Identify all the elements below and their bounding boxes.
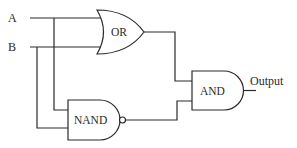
input-label-a: A — [8, 11, 17, 25]
nand-inversion-bubble — [120, 117, 126, 123]
and-gate: AND — [192, 71, 243, 110]
input-label-b: B — [8, 40, 16, 54]
output-label: Output — [250, 74, 284, 88]
or-gate-label: OR — [111, 26, 127, 38]
wire-nand-to-and — [126, 101, 193, 120]
logic-circuit-diagram: A B OR NAND AND Output — [0, 0, 297, 148]
wire-a — [30, 18, 103, 110]
wire-or-to-and — [144, 32, 192, 81]
nand-gate: NAND — [68, 100, 126, 140]
and-gate-label: AND — [200, 85, 225, 97]
nand-gate-label: NAND — [74, 114, 107, 126]
or-gate: OR — [97, 10, 144, 54]
